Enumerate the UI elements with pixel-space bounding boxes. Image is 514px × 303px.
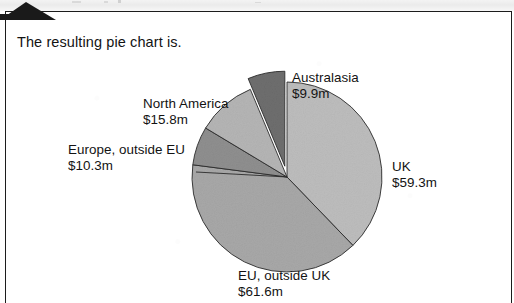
- scan-artifact-speck: [118, 0, 121, 3]
- pie-label-europe-outside-eu: Europe, outside EU $10.3m: [68, 142, 185, 173]
- scan-artifact-speck: [72, 1, 81, 3]
- intro-paragraph: The resulting pie chart is.: [17, 34, 182, 50]
- pie-label-uk-value: $59.3m: [392, 175, 437, 191]
- pie-label-eu-outside-uk: EU, outside UK $61.6m: [238, 268, 330, 299]
- pie-label-europe-outside-eu-value: $10.3m: [68, 158, 185, 174]
- pie-label-australasia-value: $9.9m: [292, 86, 359, 102]
- pie-label-uk-name: UK: [392, 159, 437, 175]
- scan-artifact-speck: [255, 2, 261, 3]
- pie-label-uk: UK $59.3m: [392, 159, 437, 190]
- scan-artifact-speck: [104, 1, 108, 3]
- pie-label-australasia: Australasia $9.9m: [292, 70, 359, 101]
- scanner-edge-strip: [0, 0, 514, 11]
- pie-label-north-america-value: $15.8m: [143, 112, 229, 128]
- pie-label-north-america: North America $15.8m: [143, 96, 229, 127]
- page-corner-fold-tail: [0, 14, 20, 20]
- pie-label-eu-outside-uk-value: $61.6m: [238, 284, 330, 300]
- pie-label-eu-outside-uk-name: EU, outside UK: [238, 268, 330, 284]
- pie-label-north-america-name: North America: [143, 96, 229, 112]
- pie-label-europe-outside-eu-name: Europe, outside EU: [68, 142, 185, 158]
- pie-label-australasia-name: Australasia: [292, 70, 359, 86]
